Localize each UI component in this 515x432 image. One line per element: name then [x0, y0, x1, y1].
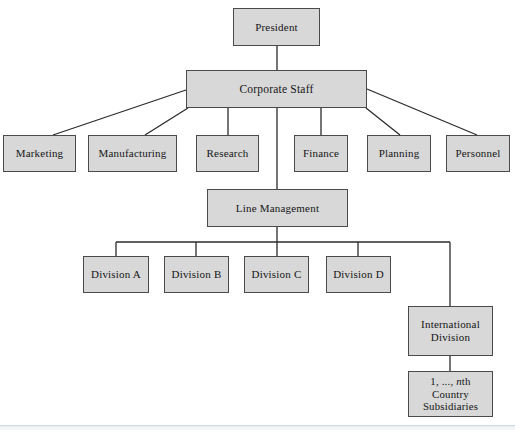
node-planning-label: Planning [379, 147, 420, 160]
node-division-b: Division B [164, 256, 229, 293]
node-marketing-label: Marketing [16, 147, 64, 160]
node-country-subsidiaries: 1, ..., nth Country Subsidiaries [408, 371, 493, 417]
node-country-subsidiaries-line2: Country [432, 388, 469, 401]
node-president: President [233, 8, 320, 46]
edge-corporate-staff-personnel [367, 89, 477, 135]
node-personnel: Personnel [446, 135, 510, 172]
edge-corporate-staff-planning [366, 108, 400, 135]
node-president-label: President [255, 21, 298, 34]
node-manufacturing: Manufacturing [88, 135, 177, 172]
node-research-label: Research [207, 147, 249, 160]
node-country-subsidiaries-line1: 1, ..., nth [430, 375, 470, 388]
node-division-c-label: Division C [252, 268, 302, 281]
node-division-b-label: Division B [172, 268, 222, 281]
node-division-c: Division C [244, 256, 309, 293]
org-chart: President Corporate Staff Marketing Manu… [0, 0, 515, 432]
node-marketing: Marketing [3, 135, 76, 172]
node-international-division: International Division [408, 306, 493, 356]
node-international-division-label: International Division [415, 318, 486, 344]
node-corporate-staff: Corporate Staff [186, 70, 367, 108]
node-division-a-label: Division A [91, 268, 141, 281]
node-finance-label: Finance [303, 147, 339, 160]
edge-corporate-staff-marketing [53, 90, 186, 135]
bottom-rule-glow [0, 427, 515, 431]
node-division-d-label: Division D [333, 268, 384, 281]
node-corporate-staff-label: Corporate Staff [239, 83, 313, 96]
node-division-a: Division A [83, 256, 149, 293]
node-research: Research [196, 135, 259, 172]
node-line-management-label: Line Management [236, 202, 319, 215]
node-line-management: Line Management [207, 189, 348, 227]
node-finance: Finance [294, 135, 348, 172]
node-personnel-label: Personnel [455, 147, 500, 160]
node-division-d: Division D [326, 256, 391, 293]
node-country-subsidiaries-line3: Subsidiaries [423, 400, 478, 413]
node-planning: Planning [367, 135, 431, 172]
node-manufacturing-label: Manufacturing [99, 147, 167, 160]
edge-corporate-staff-manufacturing [145, 108, 188, 135]
